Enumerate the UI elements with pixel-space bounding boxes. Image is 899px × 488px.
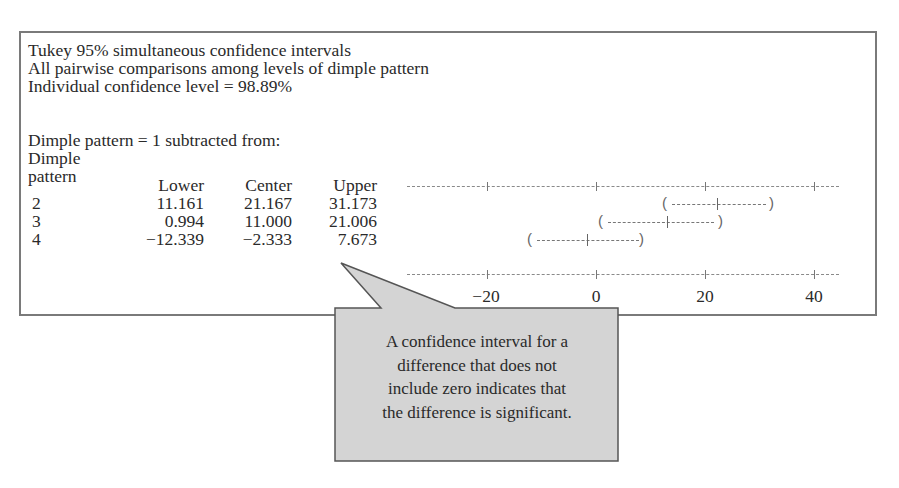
ci-center-mark <box>587 234 588 246</box>
ci-upper-bracket: ) <box>718 212 723 229</box>
confidence-level: Individual confidence level = 98.89% <box>28 77 292 95</box>
axis-label-40: 40 <box>805 286 823 307</box>
callout-line: the difference is significant. <box>337 401 617 425</box>
row-lower: 0.994 <box>165 212 204 230</box>
ci-upper-bracket: ) <box>639 230 644 247</box>
callout-text: A confidence interval for a difference t… <box>337 330 617 424</box>
ci-lower-bracket: ( <box>662 194 667 211</box>
row-center: 11.000 <box>245 212 292 230</box>
col-header-dimple: Dimple <box>28 149 81 167</box>
axis-tick <box>487 182 488 191</box>
row-level: 3 <box>32 212 41 230</box>
col-header-lower: Lower <box>158 176 204 194</box>
ci-center-mark <box>717 198 718 210</box>
row-upper: 21.006 <box>329 212 377 230</box>
axis-tick <box>705 182 706 191</box>
comparison-description: All pairwise comparisons among levels of… <box>28 59 429 77</box>
row-level: 2 <box>32 194 41 212</box>
row-lower: 11.161 <box>157 194 204 212</box>
ci-upper-bracket: ) <box>769 194 774 211</box>
row-center: −2.333 <box>243 230 292 248</box>
ci-lower-bracket: ( <box>527 230 532 247</box>
axis-label-20: 20 <box>696 286 714 307</box>
axis-label-0: 0 <box>592 286 601 307</box>
ci-bar-level-3: ( ) <box>598 215 726 229</box>
subtraction-label: Dimple pattern = 1 subtracted from: <box>28 131 280 149</box>
row-upper: 7.673 <box>338 230 377 248</box>
col-header-upper: Upper <box>333 176 377 194</box>
axis-tick <box>596 270 597 279</box>
col-header-center: Center <box>245 176 292 194</box>
ci-line <box>537 240 639 241</box>
ci-center-mark <box>667 216 668 228</box>
title-line: Tukey 95% simultaneous confidence interv… <box>28 41 351 59</box>
ci-line <box>672 204 766 205</box>
top-axis-line <box>407 186 839 188</box>
ci-line <box>608 222 714 223</box>
col-header-pattern: pattern <box>28 167 77 185</box>
axis-tick <box>705 270 706 279</box>
row-lower: −12.339 <box>146 230 204 248</box>
row-level: 4 <box>32 230 41 248</box>
row-upper: 31.173 <box>329 194 377 212</box>
callout-line: include zero indicates that <box>337 377 617 401</box>
axis-tick <box>596 182 597 191</box>
ci-bar-level-4: ( ) <box>527 233 645 247</box>
axis-tick <box>814 182 815 191</box>
ci-lower-bracket: ( <box>598 212 603 229</box>
ci-bar-level-2: ( ) <box>662 197 777 211</box>
bottom-axis-line <box>407 274 839 276</box>
callout-line: difference that does not <box>337 354 617 378</box>
axis-tick <box>487 270 488 279</box>
axis-label-neg20: −20 <box>472 286 499 307</box>
callout-line: A confidence interval for a <box>337 330 617 354</box>
row-center: 21.167 <box>244 194 292 212</box>
axis-tick <box>814 270 815 279</box>
